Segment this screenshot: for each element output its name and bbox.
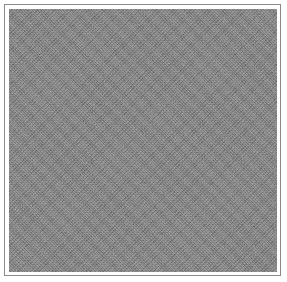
noise-texture — [9, 9, 277, 272]
noise-pattern — [9, 9, 277, 272]
